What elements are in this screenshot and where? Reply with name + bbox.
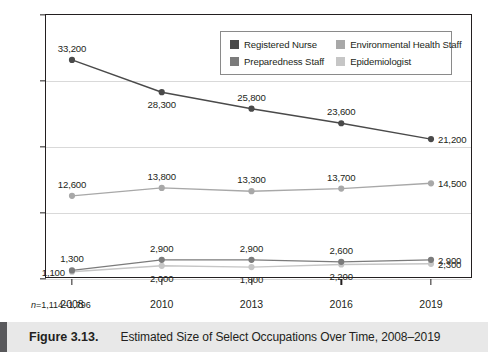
- figure-title: Estimated Size of Select Occupations Ove…: [120, 330, 440, 344]
- data-point: [248, 188, 254, 194]
- legend-label: Registered Nurse: [244, 39, 317, 50]
- legend-item[interactable]: Preparedness Staff: [230, 56, 324, 67]
- legend-swatch-icon: [336, 57, 345, 66]
- legend-label: Preparedness Staff: [244, 56, 324, 67]
- data-point-label: 25,800: [237, 91, 265, 102]
- data-point-label: 2,200: [330, 271, 353, 282]
- data-point-label: 14,500: [438, 178, 466, 189]
- data-point-label: 1,100: [42, 266, 65, 277]
- data-point: [159, 257, 165, 263]
- data-point: [428, 180, 434, 186]
- data-point-label: 1,800: [240, 274, 263, 285]
- legend-swatch-icon: [336, 40, 345, 49]
- data-point-label: 2,600: [330, 244, 353, 255]
- data-point-label: 28,300: [148, 99, 176, 110]
- data-point: [159, 89, 165, 95]
- data-point-label: 2,900: [240, 242, 263, 253]
- data-point-label: 23,600: [327, 106, 355, 117]
- figure-caption: Figure 3.13. Estimated Size of Select Oc…: [0, 322, 488, 352]
- figure-number: Figure 3.13.: [29, 330, 98, 344]
- data-point-label: 13,700: [327, 171, 355, 182]
- data-point: [69, 193, 75, 199]
- data-point-label: 13,800: [148, 170, 176, 181]
- legend-label: Environmental Health Staff: [350, 39, 461, 50]
- legend-item[interactable]: Registered Nurse: [230, 39, 324, 50]
- legend-swatch-icon: [230, 57, 239, 66]
- data-point-label: 12,600: [58, 178, 86, 189]
- legend-label: Epidemiologist: [350, 56, 411, 67]
- data-point: [159, 263, 165, 269]
- data-point: [248, 264, 254, 270]
- data-point: [69, 57, 75, 63]
- legend-item[interactable]: Epidemiologist: [336, 56, 461, 67]
- chart-legend: Registered NurseEnvironmental Health Sta…: [220, 31, 452, 75]
- footnote-range: =1,114–1,796: [36, 300, 91, 310]
- legend-swatch-icon: [230, 40, 239, 49]
- data-point: [159, 185, 165, 191]
- sample-size-note: n=1,114–1,796: [31, 300, 91, 310]
- x-tick-label: 2013: [240, 298, 263, 310]
- data-point-label: 21,200: [438, 134, 466, 145]
- data-point: [338, 259, 344, 265]
- data-point-label: 1,300: [60, 253, 83, 264]
- x-tick-mark: [430, 279, 431, 285]
- data-point-label: 13,300: [237, 174, 265, 185]
- figure-container: 010000200003000040000 200820102013201620…: [0, 0, 488, 352]
- data-point: [69, 267, 75, 273]
- data-point: [248, 257, 254, 263]
- data-point: [338, 120, 344, 126]
- plot-area: 010000200003000040000 200820102013201620…: [45, 14, 472, 278]
- x-tick-mark: [71, 279, 72, 285]
- data-point-label: 2,300: [438, 258, 461, 269]
- x-tick-label: 2016: [330, 298, 353, 310]
- x-tick-label: 2019: [419, 298, 442, 310]
- legend-item[interactable]: Environmental Health Staff: [336, 39, 461, 50]
- data-point-label: 2,900: [150, 242, 173, 253]
- caption-accent-bar: [0, 322, 7, 352]
- x-tick-label: 2010: [150, 298, 173, 310]
- data-point: [428, 257, 434, 263]
- data-point: [338, 185, 344, 191]
- data-point: [248, 106, 254, 112]
- data-point-label: 2,000: [150, 272, 173, 283]
- data-point-label: 33,200: [58, 42, 86, 53]
- data-point: [428, 136, 434, 142]
